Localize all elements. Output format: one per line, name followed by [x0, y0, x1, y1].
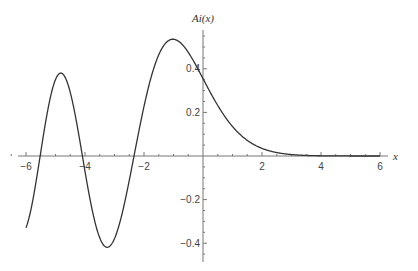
- x-tick-label: 6: [377, 161, 383, 172]
- x-tick-label: −6: [20, 161, 32, 172]
- x-axis-tick-labels: −6−4−2246: [20, 161, 383, 172]
- y-axis-ticks: [203, 36, 207, 254]
- y-tick-label: −0.2: [180, 194, 200, 205]
- x-tick-label: −2: [138, 161, 150, 172]
- airy-function-plot: −6−4−2246 0.40.2−0.2−0.4 x Ai(x): [0, 0, 418, 271]
- x-axis-label: x: [392, 150, 398, 162]
- y-axis-label: Ai(x): [191, 12, 214, 25]
- axes: −6−4−2246 0.40.2−0.2−0.4 x Ai(x): [11, 12, 398, 262]
- x-tick-label: 4: [318, 161, 324, 172]
- x-tick-label: 2: [259, 161, 265, 172]
- y-tick-label: 0.2: [186, 107, 200, 118]
- y-tick-label: −0.4: [180, 238, 200, 249]
